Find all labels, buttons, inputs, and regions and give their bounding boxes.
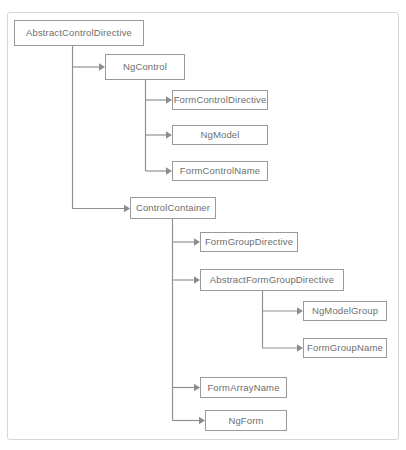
node-label-abstract-form-group-directive: AbstractFormGroupDirective [210,275,334,285]
node-form-group-name[interactable]: FormGroupName [303,338,387,358]
node-label-ng-control: NgControl [123,62,167,72]
node-abstract-control-directive[interactable]: AbstractControlDirective [14,20,144,46]
node-ng-form[interactable]: NgForm [205,410,287,431]
node-label-ng-model: NgModel [200,130,239,140]
node-ng-control[interactable]: NgControl [105,54,185,80]
node-form-control-name[interactable]: FormControlName [172,161,268,181]
node-label-control-container: ControlContainer [136,203,210,213]
node-ng-model-group[interactable]: NgModelGroup [303,301,387,321]
node-label-form-array-name: FormArrayName [207,383,279,393]
node-label-form-control-directive: FormControlDirective [174,95,267,105]
node-control-container[interactable]: ControlContainer [130,197,216,219]
node-label-form-control-name: FormControlName [180,166,260,176]
node-form-array-name[interactable]: FormArrayName [200,377,287,398]
node-label-form-group-directive: FormGroupDirective [205,237,293,247]
node-label-ng-form: NgForm [228,416,263,426]
node-form-control-directive[interactable]: FormControlDirective [172,90,268,110]
node-label-ng-model-group: NgModelGroup [312,306,378,316]
diagram-canvas: AbstractControlDirective NgControl FormC… [0,0,406,450]
node-label-form-group-name: FormGroupName [307,343,383,353]
node-ng-model[interactable]: NgModel [172,125,268,145]
node-abstract-form-group-directive[interactable]: AbstractFormGroupDirective [200,269,344,291]
class-hierarchy-diagram: AbstractControlDirective NgControl FormC… [0,0,406,450]
node-label-abstract-control-directive: AbstractControlDirective [26,28,132,38]
node-form-group-directive[interactable]: FormGroupDirective [200,232,298,252]
